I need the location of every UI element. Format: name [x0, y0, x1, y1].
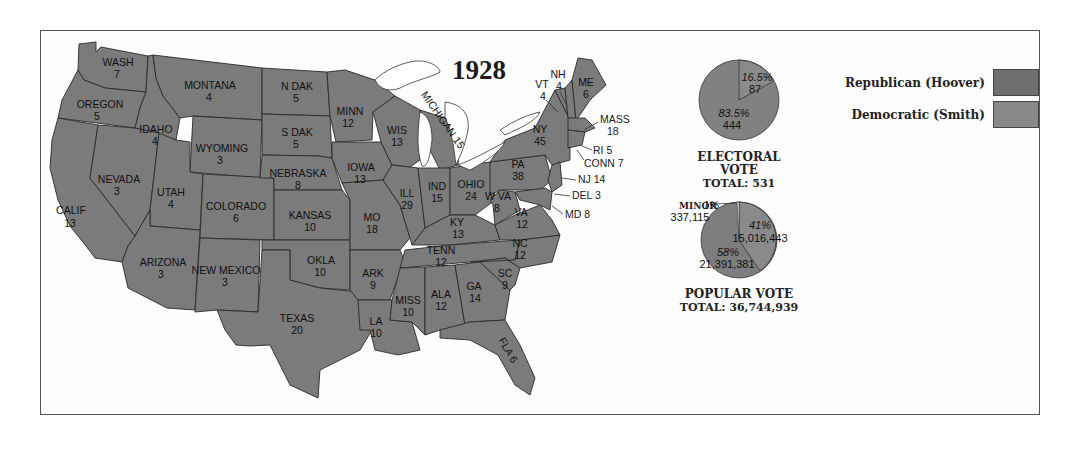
popular-dem-value: 15,016,443 — [732, 232, 787, 244]
electoral-dem-value: 87 — [749, 83, 761, 95]
popular-minor-value: 337,115 — [671, 211, 710, 223]
popular-minor-pct: 1% — [703, 199, 719, 211]
electoral-vote-caption: ELECTORAL VOTE TOTAL: 531 — [678, 151, 800, 190]
legend-label-democratic: Democratic (Smith) — [852, 108, 985, 122]
popular-vote-title: POPULAR VOTE — [664, 288, 814, 301]
electoral-dem-pct: 16.5% — [741, 71, 772, 83]
electoral-vote-total: TOTAL: 531 — [678, 177, 800, 190]
legend-label-republican: Republican (Hoover) — [845, 76, 985, 90]
popular-rep-pct: 58% — [717, 246, 739, 258]
popular-dem-pct: 41% — [749, 219, 771, 231]
electoral-rep-pct: 83.5% — [718, 107, 749, 119]
legend-swatch-republican — [993, 69, 1039, 96]
popular-rep-value: 21,391,381 — [699, 258, 754, 270]
legend: Republican (Hoover) Democratic (Smith) — [845, 68, 1039, 132]
legend-swatch-democratic — [993, 101, 1039, 128]
electoral-vote-title: ELECTORAL VOTE — [678, 151, 800, 177]
legend-item-democratic: Democratic (Smith) — [845, 100, 1039, 129]
legend-item-republican: Republican (Hoover) — [845, 68, 1039, 97]
electoral-rep-value: 444 — [723, 119, 741, 131]
popular-vote-total: TOTAL: 36,744,939 — [664, 301, 814, 314]
popular-vote-caption: POPULAR VOTE TOTAL: 36,744,939 — [664, 288, 814, 314]
